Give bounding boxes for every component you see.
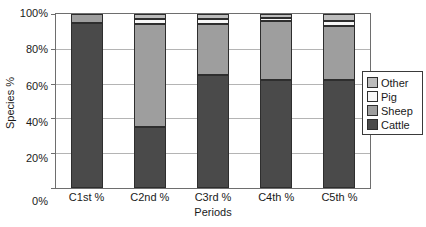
bar-segment-cattle	[260, 80, 292, 188]
stacked-bar-c3rd	[197, 14, 229, 188]
plot-area	[55, 13, 371, 189]
bar-segment-sheep	[323, 26, 355, 80]
legend-items: OtherPigSheepCattle	[367, 76, 419, 131]
bar-segment-cattle	[134, 127, 166, 188]
legend-item-other: Other	[367, 76, 419, 89]
x-category-label-c3rd: C3rd %	[181, 191, 244, 203]
bars-row	[56, 14, 370, 188]
legend-item-pig: Pig	[367, 90, 419, 103]
legend-item-cattle: Cattle	[367, 118, 419, 131]
legend-item-label: Cattle	[381, 119, 410, 131]
y-tick-mark	[51, 188, 55, 189]
y-tick-mark	[51, 49, 55, 50]
legend-item-sheep: Sheep	[367, 104, 419, 117]
legend: OtherPigSheepCattle	[362, 71, 423, 135]
bar-segment-sheep	[260, 21, 292, 80]
x-category-label-c2nd: C2nd %	[118, 191, 181, 203]
y-tick-mark	[51, 14, 55, 15]
legend-swatch-pig	[367, 91, 378, 102]
stacked-bar-c2nd	[134, 14, 166, 188]
y-tick-label-0%: 0%	[0, 195, 48, 207]
bar-segment-cattle	[323, 80, 355, 188]
species-percentage-stacked-bar-chart: Species % 100%80%60%40%20%0% C1st %C2nd …	[0, 0, 426, 227]
legend-item-label: Pig	[381, 91, 397, 103]
x-category-label-c5th: C5th %	[308, 191, 371, 203]
legend-item-label: Other	[381, 77, 409, 89]
legend-swatch-cattle	[367, 119, 378, 130]
legend-swatch-sheep	[367, 105, 378, 116]
y-tick-label-100%: 100%	[0, 7, 48, 19]
y-tick-label-40%: 40%	[0, 116, 48, 128]
x-category-label-c4th: C4th %	[245, 191, 308, 203]
stacked-bar-c1st	[71, 14, 103, 188]
bar-segment-sheep	[134, 24, 166, 127]
y-tick-label-20%: 20%	[0, 152, 48, 164]
x-axis-title: Periods	[55, 206, 371, 218]
x-axis-category-labels: C1st %C2nd %C3rd %C4th %C5th %	[55, 191, 371, 203]
legend-swatch-other	[367, 77, 378, 88]
bar-segment-sheep	[71, 14, 103, 23]
y-tick-mark	[51, 118, 55, 119]
stacked-bar-c5th	[323, 14, 355, 188]
legend-item-label: Sheep	[381, 105, 413, 117]
stacked-bar-c4th	[260, 14, 292, 188]
y-tick-label-80%: 80%	[0, 43, 48, 55]
bar-segment-cattle	[71, 23, 103, 188]
bar-segment-other	[323, 14, 355, 21]
bar-segment-cattle	[197, 75, 229, 188]
y-tick-mark	[51, 84, 55, 85]
y-tick-label-60%: 60%	[0, 80, 48, 92]
bar-segment-sheep	[197, 24, 229, 74]
x-category-label-c1st: C1st %	[55, 191, 118, 203]
y-tick-mark	[51, 153, 55, 154]
